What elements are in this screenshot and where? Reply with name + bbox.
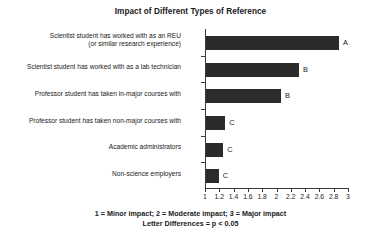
y-axis-tick	[201, 82, 205, 83]
x-axis-tick	[219, 188, 220, 192]
bar-annotation-letter: A	[343, 36, 348, 50]
bar-annotation-letter: C	[223, 169, 228, 183]
x-axis-tick	[234, 188, 235, 192]
y-axis-tick	[201, 162, 205, 163]
x-axis-tick	[262, 188, 263, 192]
bar-row: Scientist student has worked with as an …	[0, 29, 381, 58]
bar-annotation-letter: B	[285, 89, 290, 103]
x-axis-tick	[248, 188, 249, 192]
bar-row: Non-science employersC	[0, 162, 381, 191]
bar-annotation-letter: B	[303, 63, 308, 77]
bar	[206, 169, 219, 183]
x-axis-tick	[205, 185, 206, 192]
footnote-significance: Letter Differences = p < 0.05	[0, 219, 381, 228]
bar-annotation-letter: C	[227, 143, 232, 157]
x-axis-tick-label: 3	[338, 193, 358, 200]
category-label: Non-science employers	[0, 170, 181, 178]
bar-row: Academic administratorsC	[0, 136, 381, 165]
bar-annotation-letter: C	[229, 116, 234, 130]
bar	[206, 36, 339, 50]
category-label: Professor student has taken non-major co…	[0, 117, 181, 125]
x-axis-tick	[348, 188, 349, 192]
category-label: Scientist student has worked with as an …	[0, 32, 181, 49]
bar-row: Professor student has taken non-major co…	[0, 109, 381, 138]
category-label: Scientist student has worked with as a l…	[0, 63, 181, 71]
x-axis-tick	[291, 188, 292, 192]
y-axis-tick	[201, 56, 205, 57]
bar-row: Scientist student has worked with as a l…	[0, 56, 381, 85]
bar	[206, 116, 225, 130]
bar-row: Professor student has taken in-major cou…	[0, 82, 381, 111]
y-axis-tick	[201, 136, 205, 137]
x-axis-tick	[305, 188, 306, 192]
bar	[206, 143, 223, 157]
x-axis-tick	[334, 188, 335, 192]
footnote-scale: 1 = Minor impact; 2 = Moderate impact; 3…	[0, 209, 381, 218]
bar	[206, 63, 299, 77]
x-axis-tick	[319, 188, 320, 192]
bar	[206, 89, 281, 103]
chart-title: Impact of Different Types of Reference	[0, 7, 381, 16]
category-label: Academic administrators	[0, 143, 181, 151]
bar-chart: Impact of Different Types of Reference S…	[0, 0, 381, 233]
category-label: Professor student has taken in-major cou…	[0, 90, 181, 98]
x-axis-tick	[277, 188, 278, 192]
y-axis-tick	[201, 109, 205, 110]
